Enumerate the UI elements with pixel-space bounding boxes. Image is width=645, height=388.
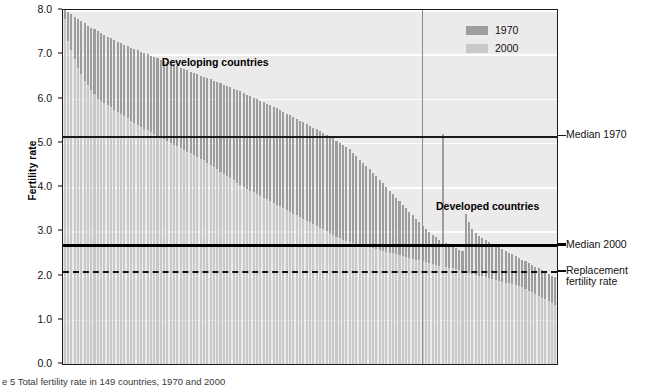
bar-2000 (90, 90, 92, 364)
bar-2000 (375, 249, 377, 364)
bar-2000 (256, 194, 258, 364)
bar-2000 (485, 277, 487, 364)
bar-2000 (213, 167, 215, 364)
y-tick-label-3.0: 3.0 (37, 224, 52, 236)
bar-2000 (210, 165, 212, 364)
label-replacement-fertility-rate: Replacement fertility rate (566, 265, 628, 287)
bar-2000 (67, 41, 69, 364)
connector-median-2000 (558, 243, 566, 246)
bar-2000 (243, 187, 245, 364)
bar-2000 (120, 114, 122, 364)
y-axis-ticks: 8.07.06.05.04.03.02.01.00.0 (0, 0, 58, 388)
bars-series-2000 (63, 10, 557, 364)
bar-2000 (319, 228, 321, 364)
bar-2000 (475, 275, 477, 364)
bar-2000 (432, 264, 434, 364)
bar-2000 (461, 271, 463, 364)
bar-2000 (541, 298, 543, 364)
median-2000-reference-line (63, 244, 557, 247)
bar-2000 (186, 152, 188, 364)
bar-2000 (544, 299, 546, 364)
bar-2000 (491, 279, 493, 364)
bar-2000 (80, 74, 82, 364)
bar-2000 (206, 163, 208, 364)
bar-2000 (269, 201, 271, 364)
bar-2000 (77, 68, 79, 364)
bar-2000 (515, 285, 517, 364)
bar-2000 (70, 50, 72, 364)
bar-2000 (508, 283, 510, 364)
bar-2000 (452, 268, 454, 364)
bar-2000 (505, 283, 507, 364)
bar-2000 (465, 272, 467, 364)
bar-2000 (468, 273, 470, 364)
bar-2000 (511, 284, 513, 364)
bar-2000 (302, 219, 304, 364)
bar-2000 (448, 268, 450, 364)
median-1970-reference-line (63, 136, 557, 138)
bar-2000 (183, 150, 185, 364)
bar-2000 (362, 245, 364, 364)
bar-2000 (150, 132, 152, 364)
bar-2000 (84, 81, 86, 364)
bar-2000 (435, 265, 437, 364)
bar-2000 (326, 231, 328, 364)
bar-2000 (329, 233, 331, 364)
bar-2000 (478, 276, 480, 365)
bar-2000 (322, 229, 324, 364)
bar-2000 (412, 259, 414, 364)
y-tick-label-0.0: 0.0 (37, 357, 52, 369)
bar-2000 (458, 270, 460, 364)
bar-2000 (180, 148, 182, 364)
bar-2000 (392, 253, 394, 364)
bar-2000 (117, 112, 119, 364)
label-replacement-line2: fertility rate (566, 276, 628, 287)
bar-2000 (359, 245, 361, 364)
bar-2000 (286, 210, 288, 364)
legend-swatch-1970 (466, 26, 488, 35)
bar-2000 (442, 245, 444, 364)
bar-2000 (296, 215, 298, 364)
bar-2000 (369, 247, 371, 364)
bar-2000 (415, 260, 417, 364)
bar-2000 (103, 103, 105, 364)
bar-2000 (428, 263, 430, 364)
bar-2000 (524, 289, 526, 364)
bar-2000 (445, 267, 447, 364)
bar-2000 (160, 137, 162, 364)
bar-2000 (339, 238, 341, 364)
bar-2000 (408, 258, 410, 364)
bar-2000 (74, 59, 76, 364)
bar-2000 (276, 205, 278, 364)
y-tick-label-5.0: 5.0 (37, 136, 52, 148)
bar-2000 (349, 242, 351, 364)
bar-2000 (266, 199, 268, 364)
bar-2000 (488, 278, 490, 364)
bar-2000 (548, 301, 550, 364)
bar-2000 (332, 235, 334, 364)
group-divider-line (422, 10, 423, 364)
replacement-fertility-reference-line (63, 271, 557, 273)
bar-2000 (538, 296, 540, 364)
legend-item-1970: 1970 (466, 22, 556, 38)
bar-2000 (163, 139, 165, 364)
legend-item-2000: 2000 (466, 40, 556, 56)
bar-2000 (156, 136, 158, 364)
connector-median-1970 (558, 135, 566, 136)
legend-swatch-2000 (466, 44, 488, 53)
y-tick-label-6.0: 6.0 (37, 92, 52, 104)
bar-2000 (249, 191, 251, 364)
y-tick-label-2.0: 2.0 (37, 269, 52, 281)
bar-2000 (372, 248, 374, 364)
bar-2000 (495, 280, 497, 364)
bar-2000 (282, 208, 284, 364)
bar-2000 (289, 212, 291, 364)
bar-2000 (100, 101, 102, 364)
bar-2000 (518, 286, 520, 364)
bar-2000 (551, 303, 553, 364)
bar-2000 (342, 240, 344, 364)
bar-2000 (345, 241, 347, 364)
bar-2000 (173, 145, 175, 364)
bar-2000 (193, 155, 195, 364)
bar-2000 (93, 94, 95, 364)
